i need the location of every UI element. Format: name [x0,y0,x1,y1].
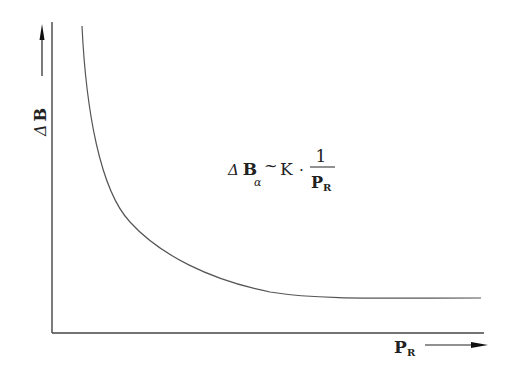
x-axis-arrow-icon [425,342,488,348]
svg-text:P: P [311,173,323,192]
svg-text:P: P [394,337,407,357]
svg-text:~: ~ [264,156,277,175]
x-axis-label: P R [394,337,416,358]
svg-text:R: R [323,182,332,193]
svg-text:ΔB: ΔB [31,108,50,137]
formula-annotation: ΔB α ~ K · 1 P R [227,146,335,193]
chart-figure: ΔB ΔB α ~ K · 1 P R P R [0,0,515,366]
y-axis-label: ΔB [31,108,50,137]
svg-text:R: R [407,347,416,358]
svg-text:K: K [280,159,293,179]
svg-text:·: · [299,161,304,179]
svg-text:1: 1 [316,146,327,166]
y-axis-arrow-icon [40,24,45,76]
svg-text:α: α [254,176,262,189]
svg-text:ΔB: ΔB [227,159,257,179]
